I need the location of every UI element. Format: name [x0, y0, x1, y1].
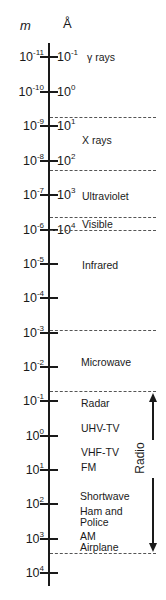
meter-label: 10-8: [23, 154, 44, 168]
meter-label: 10-10: [19, 85, 44, 99]
region-boundary: [50, 170, 156, 171]
region-label: Infrared: [82, 259, 118, 271]
region-label: X rays: [82, 134, 112, 146]
region-boundary: [50, 330, 156, 331]
region-label: Radar: [81, 397, 110, 409]
meter-label: 10-11: [19, 50, 44, 64]
meter-label: 10-6: [23, 223, 44, 237]
region-label: γ rays: [87, 51, 115, 63]
radio-arrow-down: [152, 478, 154, 546]
angstrom-label: 10-1: [57, 50, 78, 64]
region-label: VHF-TV: [81, 446, 119, 458]
region-boundary: [50, 230, 156, 231]
region-label: Microwave: [81, 356, 131, 368]
meter-label: 104: [26, 566, 44, 580]
angstrom-label: 101: [57, 119, 75, 133]
angstrom-label: 103: [57, 188, 75, 202]
meter-label: 10-5: [23, 257, 44, 271]
region-label: UHV-TV: [81, 422, 120, 434]
radio-label: Radio: [133, 442, 147, 473]
meter-label: 10-2: [23, 360, 44, 374]
radio-arrow-up: [152, 398, 154, 440]
meter-label: 10-3: [23, 326, 44, 340]
region-label: Airplane: [80, 541, 119, 553]
meter-label: 100: [26, 429, 44, 443]
meter-label: 10-7: [23, 188, 44, 202]
region-label: Ultraviolet: [82, 190, 129, 202]
region-boundary: [50, 391, 156, 392]
angstrom-header: Å: [63, 16, 72, 31]
region-boundary: [50, 117, 156, 118]
meters-header: m: [20, 18, 31, 33]
meter-label: 10-9: [23, 119, 44, 133]
region-label: Shortwave: [80, 490, 130, 502]
region-label: FM: [81, 461, 96, 473]
meter-label: 10-4: [23, 291, 44, 305]
meter-label: 102: [26, 497, 44, 511]
region-label: Visible: [82, 218, 113, 230]
meter-label: 101: [26, 463, 44, 477]
region-label: Police: [80, 516, 109, 528]
region-boundary: [50, 553, 156, 554]
meter-label: 10-1: [23, 394, 44, 408]
meter-label: 103: [26, 532, 44, 546]
angstrom-label: 102: [57, 154, 75, 168]
arrow-up-icon: [148, 393, 158, 403]
arrow-down-icon: [148, 543, 158, 553]
angstrom-label: 100: [57, 85, 75, 99]
